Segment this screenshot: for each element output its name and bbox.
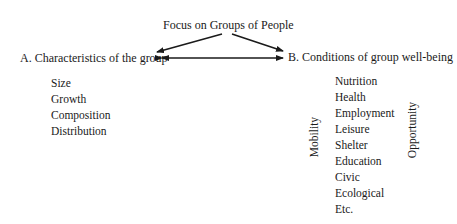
node-b: B. Conditions of group well-being: [288, 50, 453, 64]
mobility-label: Mobility: [308, 115, 320, 159]
list-item: Leisure: [335, 122, 394, 138]
list-item: Shelter: [335, 138, 394, 154]
conditions-list: Nutrition Health Employment Leisure Shel…: [335, 74, 394, 218]
node-a: A. Characteristics of the group: [20, 51, 168, 65]
list-item: Composition: [51, 108, 110, 124]
arrow-root-to-b: [232, 34, 283, 51]
list-item: Employment: [335, 106, 394, 122]
arrow-root-to-a: [157, 34, 222, 52]
list-item: Nutrition: [335, 74, 394, 90]
list-item: Size: [51, 76, 110, 92]
list-item: Etc.: [335, 202, 394, 218]
list-item: Distribution: [51, 124, 110, 140]
characteristics-list: Size Growth Composition Distribution: [51, 76, 110, 140]
list-item: Growth: [51, 92, 110, 108]
list-item: Education: [335, 154, 394, 170]
list-item: Ecological: [335, 186, 394, 202]
list-item: Civic: [335, 170, 394, 186]
root-node: Focus on Groups of People: [163, 18, 294, 32]
list-item: Health: [335, 90, 394, 106]
opportunity-label: Opportunity: [406, 100, 418, 160]
